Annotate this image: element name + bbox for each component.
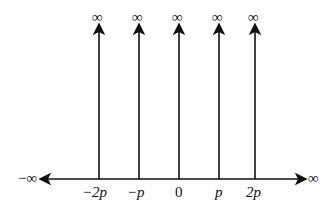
tick-label: 0 [175,185,183,200]
axes-and-spikes [0,0,333,206]
tick-label: −2p [82,185,107,200]
axis-right-label: ∞ [308,171,319,186]
impulse-train-diagram: −∞ ∞ ∞ ∞ ∞ ∞ ∞ −2p −p 0 p 2p [0,0,333,206]
spike-top-label: ∞ [172,10,183,25]
tick-label: −p [127,185,145,200]
spike-top-label: ∞ [132,10,143,25]
tick-label: 2p [246,185,261,200]
spike-top-label: ∞ [248,10,259,25]
tick-label: p [215,185,223,200]
spike-top-label: ∞ [92,10,103,25]
axis-left-label: −∞ [18,171,37,186]
spike-top-label: ∞ [212,10,223,25]
